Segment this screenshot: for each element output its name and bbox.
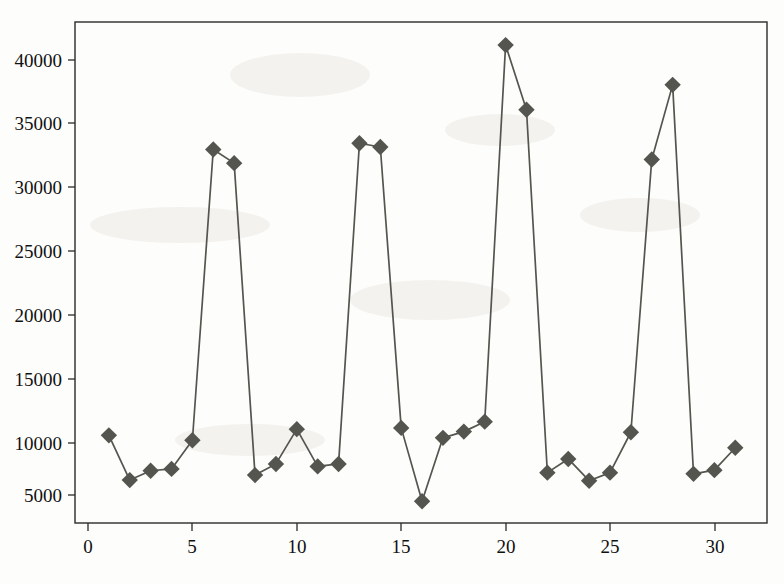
data-point-marker (477, 413, 493, 429)
data-point-marker (142, 463, 158, 479)
y-tick-label: 20000 (15, 305, 63, 326)
data-point-marker (602, 464, 618, 480)
x-tick-label: 5 (187, 536, 197, 557)
data-point-marker (205, 141, 221, 157)
data-point-marker (393, 420, 409, 436)
data-point-marker (163, 461, 179, 477)
x-tick-label: 0 (83, 536, 93, 557)
data-point-marker (330, 456, 346, 472)
data-point-marker (226, 155, 242, 171)
y-tick-label: 10000 (15, 433, 63, 454)
chart-figure: 40000 35000 30000 25000 20000 15000 1000… (0, 0, 784, 584)
x-tick-label: 25 (601, 536, 620, 557)
y-tick-label: 40000 (15, 50, 63, 71)
data-point-marker (539, 464, 555, 480)
data-point-marker (623, 424, 639, 440)
plot-frame (75, 22, 767, 523)
data-point-marker (456, 423, 472, 439)
series-markers (101, 37, 744, 510)
y-tick-label: 25000 (15, 241, 63, 262)
data-point-marker (414, 493, 430, 509)
data-point-marker (247, 467, 263, 483)
x-tick-label: 30 (706, 536, 725, 557)
y-tick-label: 30000 (15, 177, 63, 198)
data-point-marker (664, 77, 680, 93)
x-axis: 0 5 10 15 20 25 30 (83, 523, 724, 557)
data-point-marker (101, 427, 117, 443)
data-point-marker (435, 430, 451, 446)
data-point-marker (497, 37, 513, 53)
data-point-marker (309, 458, 325, 474)
x-tick-label: 15 (392, 536, 411, 557)
data-point-marker (351, 135, 367, 151)
x-tick-label: 20 (497, 536, 516, 557)
y-tick-label: 15000 (15, 369, 63, 390)
x-tick-label: 10 (288, 536, 307, 557)
data-point-marker (644, 151, 660, 167)
paper-texture (90, 53, 700, 456)
y-tick-label: 35000 (15, 113, 63, 134)
y-axis: 40000 35000 30000 25000 20000 15000 1000… (15, 50, 76, 506)
data-point-marker (122, 472, 138, 488)
line-chart-canvas: 40000 35000 30000 25000 20000 15000 1000… (0, 0, 784, 584)
data-point-marker (372, 139, 388, 155)
data-point-marker (268, 456, 284, 472)
y-tick-label: 5000 (24, 485, 62, 506)
data-point-marker (685, 466, 701, 482)
